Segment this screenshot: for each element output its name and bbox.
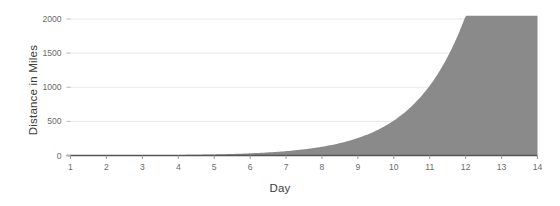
y-tick-label: 0 <box>57 151 62 161</box>
x-tick-label: 1 <box>68 162 73 172</box>
x-tick-label: 10 <box>389 162 399 172</box>
x-tick-label-group: 1234567891011121314 <box>68 162 542 172</box>
y-tick-label: 1000 <box>42 82 61 92</box>
x-tick-label: 14 <box>533 162 543 172</box>
x-tick-label: 3 <box>140 162 145 172</box>
x-tick-label: 5 <box>212 162 217 172</box>
x-tick-label: 11 <box>425 162 434 172</box>
y-tick-label-group: 0500100015002000 <box>42 14 61 161</box>
x-tick-label: 12 <box>461 162 471 172</box>
chart-plot-area: 0500100015002000 1234567891011121314 <box>0 0 560 206</box>
y-tick-label: 1500 <box>42 48 61 58</box>
x-tick-label: 2 <box>104 162 109 172</box>
x-tick-label: 6 <box>248 162 253 172</box>
x-tick-label: 4 <box>176 162 181 172</box>
x-tick-label: 8 <box>320 162 325 172</box>
area-series-group <box>71 16 538 156</box>
area-series-path <box>71 16 538 156</box>
x-axis-title: Day <box>0 182 560 194</box>
x-tick-label: 9 <box>355 162 360 172</box>
y-tick-label: 2000 <box>42 14 61 24</box>
chart-container: Distance in Miles 0500100015002000 12345… <box>0 0 560 206</box>
y-tick-label: 500 <box>47 116 62 126</box>
x-tick-label: 13 <box>497 162 507 172</box>
x-tick-label: 7 <box>284 162 289 172</box>
